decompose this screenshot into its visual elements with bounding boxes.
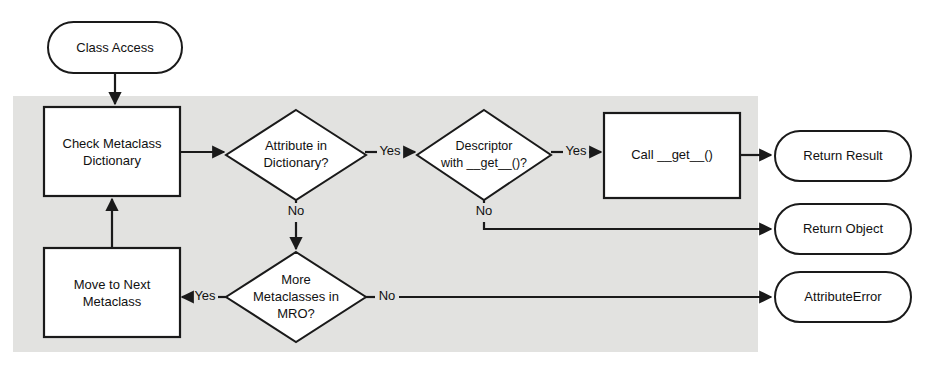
node-return-object[interactable]: Return Object <box>775 204 911 254</box>
edge-label-more-no: No <box>379 288 396 303</box>
call-get-label: Call __get__() <box>631 147 713 162</box>
move-next-label-line1: Move to Next <box>74 277 151 292</box>
node-move-to-next-metaclass[interactable]: Move to Next Metaclass <box>44 248 180 337</box>
edge-label-more-yes: Yes <box>194 288 216 303</box>
check-dict-shape <box>44 107 180 196</box>
flowchart-canvas: Descriptor --> More Metaclasses --> Call… <box>0 0 938 368</box>
more-metaclasses-label-line3: MRO? <box>277 306 315 321</box>
return-object-label: Return Object <box>803 221 884 236</box>
descriptor-label-line2: with __get__()? <box>440 156 527 170</box>
more-metaclasses-label-line2: Metaclasses in <box>253 289 339 304</box>
node-call-get[interactable]: Call __get__() <box>604 113 740 198</box>
return-result-label: Return Result <box>803 148 883 163</box>
node-check-metaclass-dictionary[interactable]: Check Metaclass Dictionary <box>44 107 180 196</box>
edge-label-descriptor-no: No <box>476 203 493 218</box>
node-return-result[interactable]: Return Result <box>775 131 911 181</box>
edge-label-descriptor-yes: Yes <box>565 143 587 158</box>
move-next-shape <box>44 248 180 337</box>
more-metaclasses-label-line1: More <box>281 272 311 287</box>
descriptor-label-line1: Descriptor <box>456 139 513 153</box>
edge-label-attr-no: No <box>288 203 305 218</box>
attribute-error-label: AttributeError <box>804 289 882 304</box>
node-attribute-error[interactable]: AttributeError <box>775 272 911 322</box>
move-next-label-line2: Metaclass <box>83 294 142 309</box>
edge-label-attr-yes: Yes <box>379 143 401 158</box>
check-dict-label-line2: Dictionary <box>83 153 141 168</box>
flowchart-diagram: Descriptor --> More Metaclasses --> Call… <box>0 0 938 368</box>
check-dict-label-line1: Check Metaclass <box>63 136 162 151</box>
attr-in-dict-label-line2: Dictionary? <box>263 155 328 170</box>
node-class-access[interactable]: Class Access <box>48 22 182 73</box>
class-access-label: Class Access <box>76 40 154 55</box>
attr-in-dict-label-line1: Attribute in <box>265 138 327 153</box>
